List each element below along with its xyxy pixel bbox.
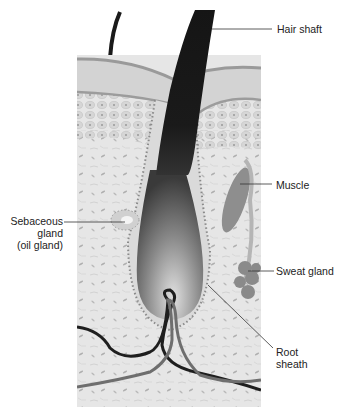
label-sebaceous-line1: Sebaceous <box>8 215 63 227</box>
label-sweat-gland: Sweat gland <box>276 265 334 277</box>
small-hair <box>110 12 120 58</box>
label-root-sheath: Root sheath <box>276 346 308 370</box>
label-sebaceous-gland: Sebaceous gland (oil gland) <box>8 215 63 251</box>
label-sebaceous-line3: (oil gland) <box>8 239 63 251</box>
label-root-line1: Root <box>276 346 308 358</box>
label-hair-shaft: Hair shaft <box>277 23 322 35</box>
label-sebaceous-line2: gland <box>8 227 63 239</box>
label-muscle: Muscle <box>276 179 309 191</box>
label-root-line2: sheath <box>276 358 308 370</box>
